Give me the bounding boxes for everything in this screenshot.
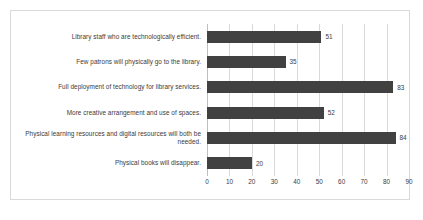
x-axis-tick-label: 60 xyxy=(338,178,345,185)
bar-container: 51 xyxy=(207,24,409,49)
category-label: Physical books will disappear. xyxy=(11,159,207,167)
bar[interactable] xyxy=(207,31,321,43)
table-row: Library staff who are technologically ef… xyxy=(11,24,409,49)
bar[interactable] xyxy=(207,107,324,119)
table-row: Few patrons will physically go to the li… xyxy=(11,49,409,74)
bar-value-label: 84 xyxy=(400,134,407,141)
category-label: Physical learning resources and digital … xyxy=(11,130,207,146)
bar-container: 52 xyxy=(207,100,409,125)
chart-plot-area: Library staff who are technologically ef… xyxy=(11,11,409,199)
bar-value-label: 35 xyxy=(290,58,297,65)
bar-container: 20 xyxy=(207,151,409,176)
x-axis-tick-label: 80 xyxy=(383,178,390,185)
bar-container: 35 xyxy=(207,49,409,74)
table-row: Physical books will disappear. 20 xyxy=(11,151,409,176)
category-label: More creative arrangement and use of spa… xyxy=(11,109,207,117)
table-row: Full deployment of technology for librar… xyxy=(11,75,409,100)
x-axis-tick-label: 70 xyxy=(361,178,368,185)
bar-value-label: 83 xyxy=(397,84,404,91)
x-axis-tick-label: 20 xyxy=(248,178,255,185)
x-axis-tick-label: 30 xyxy=(271,178,278,185)
gridline xyxy=(409,24,410,176)
x-axis-tick-label: 10 xyxy=(226,178,233,185)
bar-container: 84 xyxy=(207,125,409,150)
bar[interactable] xyxy=(207,157,252,169)
category-label: Full deployment of technology for librar… xyxy=(11,83,207,91)
category-label: Few patrons will physically go to the li… xyxy=(11,58,207,66)
bar[interactable] xyxy=(207,81,393,93)
table-row: Physical learning resources and digital … xyxy=(11,125,409,150)
x-axis-tick-label: 40 xyxy=(293,178,300,185)
table-row: More creative arrangement and use of spa… xyxy=(11,100,409,125)
bar-value-label: 52 xyxy=(328,109,335,116)
category-label: Library staff who are technologically ef… xyxy=(11,33,207,41)
bar-container: 83 xyxy=(207,75,409,100)
x-axis-tick-label: 0 xyxy=(205,178,209,185)
bar-value-label: 20 xyxy=(256,160,263,167)
bar[interactable] xyxy=(207,132,396,144)
bar-value-label: 51 xyxy=(325,33,332,40)
bar[interactable] xyxy=(207,56,286,68)
bar-rows: Library staff who are technologically ef… xyxy=(11,24,409,176)
chart-frame: Library staff who are technologically ef… xyxy=(10,10,410,200)
x-axis-tick-label: 50 xyxy=(316,178,323,185)
x-axis-tick-label: 90 xyxy=(405,178,412,185)
x-axis: 0102030405060708090 xyxy=(207,176,409,196)
